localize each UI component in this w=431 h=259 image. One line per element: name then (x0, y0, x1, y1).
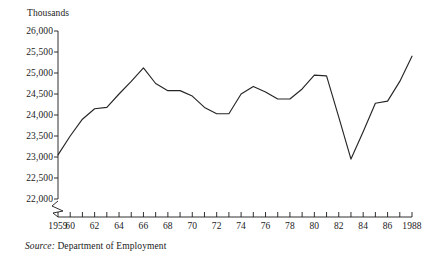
x-axis-tick-label: 60 (65, 221, 75, 231)
x-axis-tick-label: 84 (358, 221, 368, 231)
x-axis-tick-label: 1988 (402, 221, 421, 231)
x-axis-tick-label: 80 (309, 221, 319, 231)
x-axis-tick-label: 70 (187, 221, 197, 231)
x-axis-tick-label: 62 (90, 221, 100, 231)
x-axis-tick-label: 74 (236, 221, 246, 231)
x-axis-tick-label: 72 (212, 221, 222, 231)
x-axis-tick-label: 82 (334, 221, 344, 231)
x-axis-tick-label: 68 (163, 221, 173, 231)
x-axis-tick-label: 66 (139, 221, 149, 231)
x-axis-tick-label: 86 (383, 221, 393, 231)
x-axis-tick-label: 78 (285, 221, 295, 231)
x-axis-tick-label: 76 (261, 221, 271, 231)
source-value: Department of Employment (57, 241, 166, 251)
source-label: Source: (25, 241, 55, 251)
x-axis-tick-labels: 195960626466687072747678808284861988 (0, 0, 431, 259)
source-caption: Source: Department of Employment (25, 241, 166, 251)
chart-figure: Thousands 26,00025,50025,00024,50024,000… (0, 0, 431, 259)
x-axis-tick-label: 64 (114, 221, 124, 231)
